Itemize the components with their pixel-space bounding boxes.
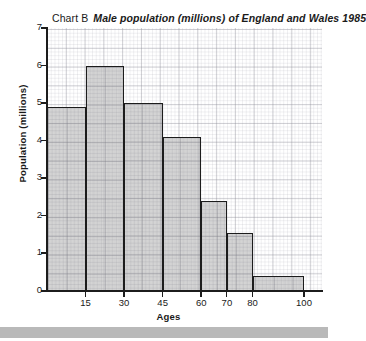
- y-axis-line: [46, 27, 48, 292]
- page-edge-band: [0, 327, 328, 338]
- bar-80-100: [253, 276, 304, 291]
- chart-title-lead: Chart B: [52, 12, 88, 24]
- x-tick-label-30: 30: [109, 298, 139, 308]
- y-tick-label-2: 2: [12, 210, 42, 220]
- bar-45-60: [163, 137, 202, 291]
- x-tick-label-80: 80: [238, 298, 268, 308]
- x-tick-label-15: 15: [71, 298, 101, 308]
- y-axis-title: Population (millions): [17, 59, 28, 209]
- bar-0-15: [47, 107, 86, 291]
- chart-title-main: Male population (millions) of England an…: [93, 12, 366, 24]
- chart-title: Chart BMale population (millions) of Eng…: [52, 12, 366, 24]
- x-tick-label-100: 100: [289, 298, 319, 308]
- y-tick-label-7: 7: [12, 22, 42, 32]
- y-tick-label-1: 1: [12, 247, 42, 257]
- x-axis-line: [46, 290, 323, 292]
- bar-30-45: [124, 103, 163, 291]
- bar-70-80: [227, 233, 253, 291]
- y-tick-label-0: 0: [12, 285, 42, 295]
- bar-60-70: [201, 201, 227, 291]
- bar-15-30: [86, 66, 125, 291]
- x-axis-title: Ages: [0, 311, 337, 322]
- x-tick-label-45: 45: [148, 298, 178, 308]
